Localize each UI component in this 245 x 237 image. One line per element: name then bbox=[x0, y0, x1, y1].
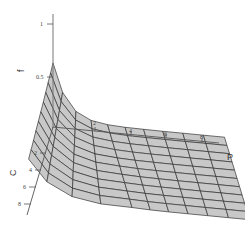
f-tick-label-05: 0.5 bbox=[36, 74, 44, 80]
p-tick-label-8: 8 bbox=[200, 134, 203, 140]
c-tick-label-2: 2 bbox=[34, 150, 37, 156]
f-tick-label-1: 1 bbox=[40, 21, 43, 27]
surface-cell bbox=[226, 209, 245, 219]
f-axis-label: f bbox=[16, 69, 26, 72]
surface-mesh bbox=[29, 63, 245, 220]
c-tick-label-8: 8 bbox=[18, 201, 21, 207]
p-axis-label: P bbox=[227, 152, 233, 162]
surface-cell bbox=[205, 208, 228, 218]
surface-cell bbox=[166, 204, 188, 214]
surface-plot: 1 0.5 f 2 4 6 8 P 2 4 6 8 C bbox=[0, 0, 245, 237]
c-tick-label-4: 4 bbox=[29, 167, 32, 173]
p-tick-label-2: 2 bbox=[93, 120, 96, 126]
c-axis-label: C bbox=[8, 169, 18, 176]
p-tick-label-4: 4 bbox=[129, 128, 132, 134]
p-tick-label-6: 6 bbox=[164, 131, 167, 137]
c-tick-label-6: 6 bbox=[23, 184, 26, 190]
